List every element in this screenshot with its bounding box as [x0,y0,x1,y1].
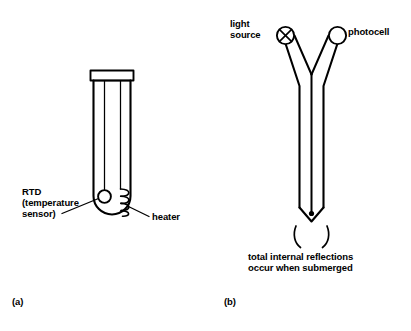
rtd-sensor-circle [98,190,111,203]
rtd-label-line-3: sensor) [22,208,56,219]
figure-root: RTD (temperature sensor) heater light so… [0,0,411,331]
panel-a-caption: (a) [12,296,23,307]
rtd-label-line-1: RTD [22,186,41,197]
optical-left-wall [286,44,300,208]
optical-right-wall [324,44,338,208]
optical-inner-v-left [295,36,312,75]
light-source-label-line-1: light [230,18,250,29]
photocell-label: photocell [348,26,389,37]
heater-leader-line [130,207,150,217]
light-source-label-line-2: source [230,29,261,40]
reflection-caption-line-2: occur when submerged [248,262,353,273]
liquid-arc-left [294,226,300,248]
panel-b-graphics [277,27,346,248]
prism-tip-dot [309,211,314,216]
diagram-canvas [0,0,411,331]
panel-b-caption: (b) [224,296,236,307]
heater-label: heater [152,211,180,222]
light-source-label: light source [230,18,261,40]
liquid-arc-right [323,226,329,248]
reflection-caption: total internal reflections occur when su… [248,251,353,273]
rtd-label-line-2: (temperature [22,197,79,208]
probe-cap [91,71,134,81]
optical-inner-v-right [312,36,329,75]
reflection-caption-line-1: total internal reflections [248,251,353,262]
rtd-label: RTD (temperature sensor) [22,186,79,220]
light-source-icon [277,27,294,44]
photocell-icon [329,27,346,44]
